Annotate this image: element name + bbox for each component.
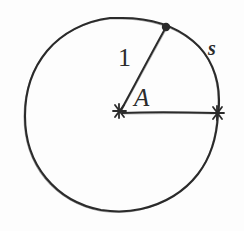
radius-length-label: 1 [118,45,131,71]
arc-start-asterisk-marker [211,106,224,120]
arc-length-label: s [208,38,216,58]
circle-diagram-svg [0,0,244,231]
horizontal-radius-line [122,112,216,113]
arc-end-dot-marker [162,23,170,31]
center-asterisk-marker [113,104,126,118]
central-angle-label: A [134,85,149,110]
figure-canvas: 1 A s [0,0,244,231]
